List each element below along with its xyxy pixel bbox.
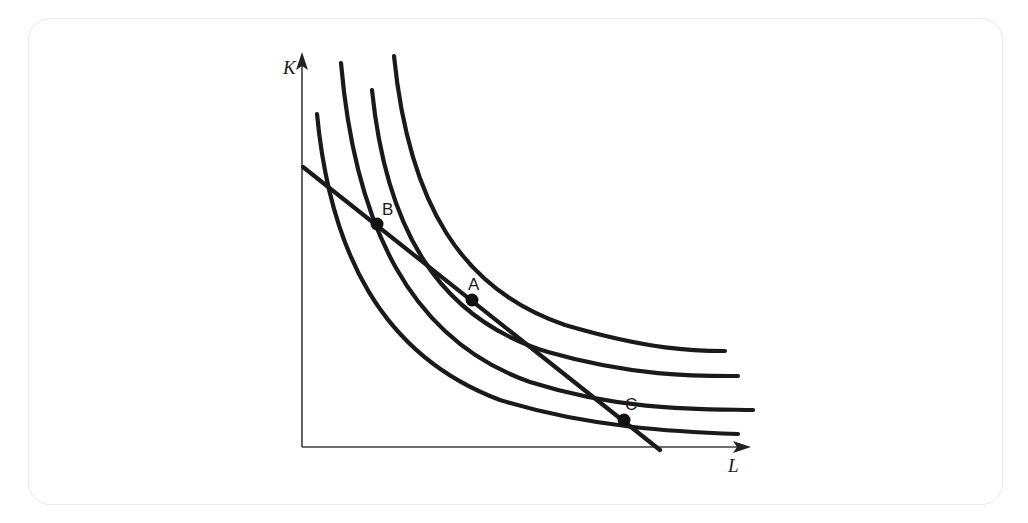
point-c-label: C	[625, 395, 637, 414]
point-a-label: A	[468, 275, 480, 294]
isocost-line	[303, 167, 660, 450]
point-b-label: B	[382, 200, 393, 219]
point-b-marker	[371, 218, 384, 231]
x-axis-label: L	[727, 455, 739, 476]
isoquant-plot: B A C K L	[0, 0, 1028, 523]
isoquant-curve-4	[394, 56, 725, 351]
y-axis-label: K	[282, 57, 297, 78]
figure-root: B A C K L	[0, 0, 1028, 523]
point-a-marker	[466, 294, 479, 307]
point-c-marker	[618, 414, 631, 427]
isoquant-curve-3	[372, 90, 738, 376]
isoquant-curve-1	[317, 114, 738, 434]
